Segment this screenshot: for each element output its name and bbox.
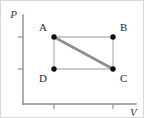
y-axis-ticks — [18, 37, 23, 69]
state-label-d: D — [39, 72, 47, 84]
state-point-b — [110, 34, 115, 39]
state-point-c — [110, 66, 115, 71]
state-label-c: C — [120, 72, 127, 84]
y-axis-label: P — [9, 8, 17, 20]
state-point-d — [51, 66, 56, 71]
state-label-a: A — [39, 21, 47, 33]
state-point-a — [51, 34, 56, 39]
x-axis-ticks — [54, 104, 113, 109]
diagonal-process-line — [54, 37, 113, 69]
pv-diagram-figure: A B C D P V — [0, 0, 144, 118]
state-label-b: B — [120, 21, 127, 33]
x-axis-label: V — [130, 106, 138, 118]
pv-diagram-canvas: A B C D P V — [1, 1, 144, 118]
